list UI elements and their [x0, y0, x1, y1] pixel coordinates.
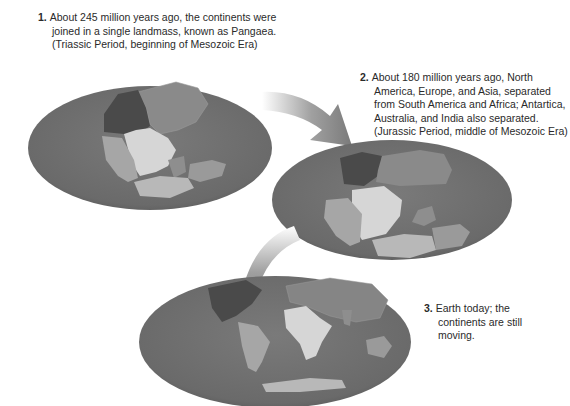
- globe-jurassic: [272, 140, 512, 260]
- eurasia-landmass: [376, 150, 452, 186]
- globe-today: [139, 276, 411, 406]
- globe-pangaea: [28, 82, 272, 210]
- arrow-stage-1-to-2: [262, 92, 352, 146]
